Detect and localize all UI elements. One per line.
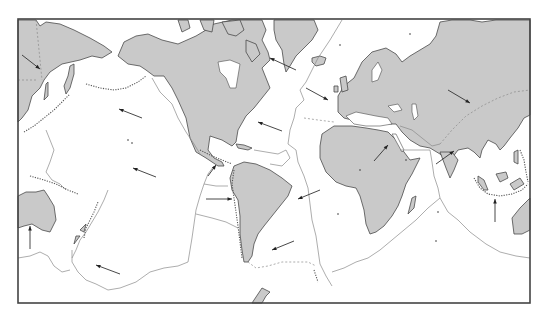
quake-dot [437, 211, 439, 213]
quake-dot [131, 142, 133, 144]
quake-dot [337, 213, 339, 215]
quake-dot [409, 33, 411, 35]
quake-dot [405, 159, 407, 161]
landmass-philippines [514, 150, 518, 164]
quake-dot [359, 169, 361, 171]
map-canvas [0, 0, 544, 321]
quake-dot [339, 44, 341, 46]
quake-dot [435, 240, 437, 242]
quake-dot [127, 139, 129, 141]
plate-tectonics-map [0, 0, 544, 321]
